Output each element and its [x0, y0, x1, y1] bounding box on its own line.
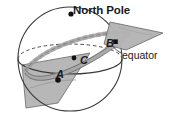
north-pole-label: North Pole	[73, 5, 130, 17]
equator-label: equator	[122, 50, 158, 61]
point-a-label: A	[56, 69, 64, 80]
point-b-label: B	[106, 38, 114, 49]
point-c-marker	[72, 56, 77, 61]
geometry-figure: North Pole equator A B C	[0, 0, 173, 118]
point-c-label: C	[80, 55, 88, 66]
